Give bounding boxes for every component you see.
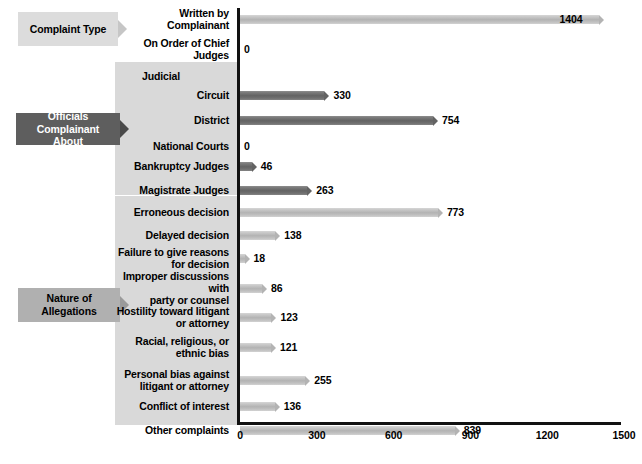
bar <box>240 284 262 293</box>
bar-value-label: 86 <box>271 282 282 294</box>
bar-tip-icon <box>438 208 443 218</box>
bar-value-label: 136 <box>284 400 301 412</box>
bar-tip-icon <box>433 116 438 126</box>
bar-value-label: 138 <box>284 229 301 241</box>
bar <box>240 91 324 100</box>
bar-value-label: 754 <box>442 114 459 126</box>
bar <box>240 343 271 352</box>
category-label-line: ethnic bias <box>115 347 229 359</box>
category-label-line: District <box>115 114 229 126</box>
plot-area: 1404033075404626377313818861231212551368… <box>237 8 621 422</box>
bar <box>240 313 271 322</box>
group-label-text-line2: Allegations <box>41 305 97 318</box>
category-label-line: Failure to give reasons <box>115 246 229 258</box>
category-label: Judicial <box>115 70 233 82</box>
bar-tip-icon <box>252 162 257 172</box>
bar-value-label: 46 <box>261 160 272 172</box>
bar-tip-icon <box>599 15 604 25</box>
x-tick-label: 1200 <box>536 429 559 441</box>
bar-value-label: 330 <box>333 89 350 101</box>
bar-value-label: 773 <box>447 206 464 218</box>
bar-value-label: 123 <box>280 311 297 323</box>
bar-tip-icon <box>307 186 312 196</box>
bar-tip-icon <box>455 426 460 436</box>
category-label-line: Bankruptcy Judges <box>115 160 229 172</box>
category-label: Other complaints <box>115 424 233 436</box>
bar-tip-icon <box>271 313 276 323</box>
category-label-line: litigant or attorney <box>115 380 229 392</box>
category-label-line: or attorney <box>115 317 229 329</box>
category-label-line: Improper discussions with <box>115 270 229 294</box>
category-label: On Order of Chief Judges <box>115 43 233 55</box>
category-label: Racial, religious, orethnic bias <box>115 335 233 359</box>
bar-tip-icon <box>262 284 267 294</box>
x-tick-label: 1500 <box>613 429 636 441</box>
bar-tip-icon <box>271 343 276 353</box>
category-label: National Courts <box>115 140 233 152</box>
category-label: Bankruptcy Judges <box>115 160 233 172</box>
bar-value-label: 0 <box>244 140 250 152</box>
bar-tip-icon <box>245 254 250 264</box>
category-label: Erroneous decision <box>115 206 233 218</box>
category-label-line: Delayed decision <box>115 229 229 241</box>
bar <box>240 186 307 195</box>
bar <box>240 376 305 385</box>
bar <box>240 231 275 240</box>
bar <box>240 402 275 411</box>
category-label-line: Written by Complainant <box>115 7 229 31</box>
group-label-nature-of-allegations: Nature of Allegations <box>18 288 120 322</box>
x-axis-line <box>237 422 621 425</box>
bar <box>240 116 433 125</box>
bar-value-label: 121 <box>280 341 297 353</box>
category-label: Delayed decision <box>115 229 233 241</box>
category-label: Conflict of interest <box>115 400 233 412</box>
bar-tip-icon <box>275 231 280 241</box>
category-label-line: National Courts <box>115 140 229 152</box>
x-tick-label: 300 <box>308 429 325 441</box>
category-label-line: Other complaints <box>115 424 229 436</box>
category-label-line: Conflict of interest <box>115 400 229 412</box>
bar-value-label: 1404 <box>559 13 582 25</box>
bar <box>240 208 438 217</box>
category-label: Written by Complainant <box>115 13 233 25</box>
bar-value-label: 263 <box>316 184 333 196</box>
category-label: Personal bias againstlitigant or attorne… <box>115 368 233 392</box>
group-label-officials-complainant-about: Officials Complainant About <box>16 113 120 145</box>
x-tick-label: 900 <box>462 429 479 441</box>
bar <box>240 162 252 171</box>
category-label-line: Circuit <box>115 89 229 101</box>
category-label-line: Racial, religious, or <box>115 335 229 347</box>
category-label: Magistrate Judges <box>115 184 233 196</box>
category-label: Improper discussions withparty or counse… <box>115 276 233 300</box>
group-label-text-line2: About <box>53 135 83 148</box>
group-label-text-line1: Nature of <box>46 292 91 305</box>
bar <box>240 15 599 24</box>
bar-value-label: 18 <box>254 252 265 264</box>
category-label: Circuit <box>115 89 233 101</box>
bar-value-label: 255 <box>314 374 331 386</box>
category-label-line: Erroneous decision <box>115 206 229 218</box>
bar-value-label: 0 <box>244 43 250 55</box>
group-label-complaint-type: Complaint Type <box>18 12 118 46</box>
category-label-line: Personal bias against <box>115 368 229 380</box>
category-label: Failure to give reasonsfor decision <box>115 246 233 270</box>
group-label-text: Complaint Type <box>30 23 107 36</box>
category-label-line: Judicial <box>115 70 207 82</box>
category-label-line: Hostility toward litigant <box>115 305 229 317</box>
category-label-line: Magistrate Judges <box>115 184 229 196</box>
chart-figure: Complaint Type Officials Complainant Abo… <box>0 0 642 464</box>
bar <box>240 254 245 263</box>
group-label-text-line1: Officials Complainant <box>20 110 116 136</box>
bar <box>240 426 455 435</box>
category-label: District <box>115 114 233 126</box>
x-tick-label: 0 <box>237 429 243 441</box>
x-tick-label: 600 <box>385 429 402 441</box>
bar-tip-icon <box>305 376 310 386</box>
bar-tip-icon <box>275 402 280 412</box>
category-label-line: for decision <box>115 258 229 270</box>
bar-tip-icon <box>324 91 329 101</box>
category-label-line: On Order of Chief Judges <box>115 37 229 61</box>
category-label: Hostility toward litigantor attorney <box>115 305 233 329</box>
